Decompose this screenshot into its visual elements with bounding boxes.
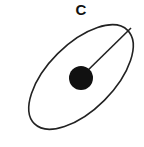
center-dot (69, 66, 93, 90)
ellipse-diagram (0, 0, 144, 147)
